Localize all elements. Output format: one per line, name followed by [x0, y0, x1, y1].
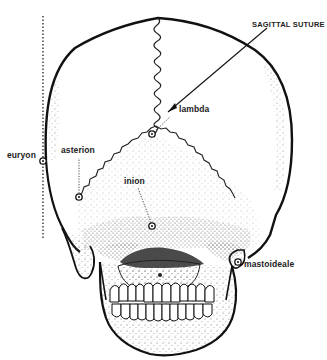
- upper-teeth: [110, 283, 214, 302]
- label-euryon: euryon: [7, 150, 36, 160]
- sagittal-suture-line: [154, 18, 161, 134]
- skull-diagram: SAGITTAL SUTURE lambda euryon asterion i…: [0, 0, 327, 360]
- label-asterion: asterion: [61, 145, 95, 155]
- skull-illustration: [0, 0, 327, 360]
- label-inion: inion: [124, 176, 145, 186]
- label-mastoideale: mastoideale: [244, 259, 294, 269]
- label-lambda: lambda: [179, 104, 209, 114]
- sagittal-suture-pointer: [168, 28, 267, 112]
- lower-teeth: [112, 304, 212, 321]
- label-sagittal-suture: SAGITTAL SUTURE: [252, 20, 325, 29]
